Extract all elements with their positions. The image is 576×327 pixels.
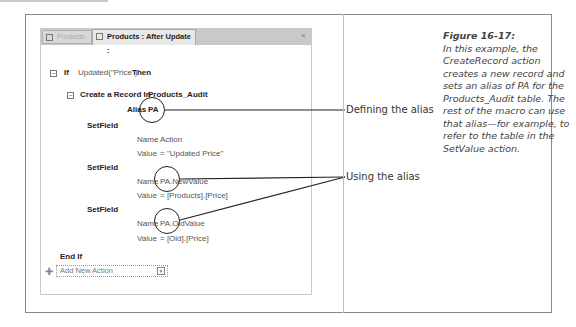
callout-using-alias: Using the alias <box>346 171 420 182</box>
callout-divider <box>343 14 344 313</box>
figure-title: Figure 16-17: <box>443 30 573 43</box>
callout-defining-alias: Defining the alias <box>346 104 434 115</box>
figure-caption: Figure 16-17: In this example, the Creat… <box>443 30 573 155</box>
figure-body: In this example, the CreateRecord action… <box>443 43 569 154</box>
